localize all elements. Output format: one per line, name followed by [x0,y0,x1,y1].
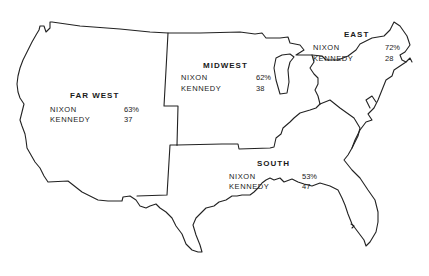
candidate-kennedy-label: KENNEDY [229,182,269,191]
candidate-kennedy-value: 38 [256,84,264,93]
region-title-east: EAST [344,30,369,39]
farwest-south-border [137,145,177,196]
midwest-south-border [177,104,320,149]
candidate-nixon-value: 63% [124,105,139,114]
east-south-border [320,100,360,148]
candidate-kennedy-label: KENNEDY [50,115,90,124]
us-regions-map [0,0,429,276]
candidate-nixon-value: 72% [385,43,400,52]
candidate-kennedy-label: KENNEDY [313,54,353,63]
candidate-nixon-value: 53% [302,172,317,181]
tampa-bay [351,224,354,228]
region-title-midwest: MIDWEST [203,61,248,70]
candidate-kennedy-value: 37 [124,115,132,124]
candidate-kennedy-value: 47 [302,182,310,191]
lake-michigan [274,54,294,94]
candidate-nixon-label: NIXON [313,43,340,52]
region-title-far-west: FAR WEST [70,91,119,100]
farwest-midwest-border [164,33,178,145]
candidate-kennedy-label: KENNEDY [181,84,221,93]
candidate-kennedy-value: 28 [385,54,393,63]
region-title-south: SOUTH [257,159,290,168]
candidate-nixon-value: 62% [256,73,271,82]
candidate-nixon-label: NIXON [181,73,208,82]
candidate-nixon-label: NIXON [50,105,77,114]
candidate-nixon-label: NIXON [229,172,256,181]
cape-cod [406,58,412,62]
